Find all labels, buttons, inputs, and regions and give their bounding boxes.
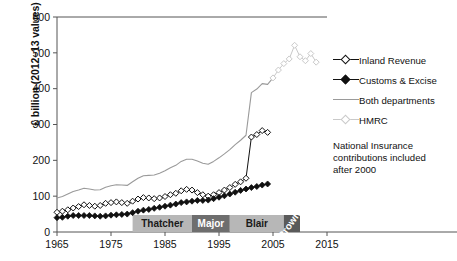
legend-label-both-departments: Both departments <box>359 95 435 106</box>
filled-diamond-icon <box>333 73 359 87</box>
legend-item-inland-revenue[interactable]: Inland Revenue <box>333 50 457 70</box>
legend-item-both-departments[interactable]: Both departments <box>333 90 457 110</box>
y-tick-label: 500 <box>32 47 50 59</box>
pm-band-thatcher: Thatcher <box>133 215 192 232</box>
x-tick-label: 1965 <box>45 238 69 250</box>
legend-label-hmrc: HMRC <box>359 115 388 126</box>
x-tick-label: 1975 <box>99 238 123 250</box>
chart-annotation-note: National Insurance contributions include… <box>333 140 455 177</box>
pm-band-major: Major <box>192 215 230 232</box>
legend-label-inland-revenue: Inland Revenue <box>359 55 426 66</box>
series-customs-excise <box>54 181 271 221</box>
series-hmrc <box>270 42 319 81</box>
y-tick-label: 200 <box>32 154 50 166</box>
svg-text:Major: Major <box>198 218 225 229</box>
note-line-3: after 2000 <box>333 164 455 176</box>
x-tick-label: 1985 <box>153 238 177 250</box>
svg-text:Thatcher: Thatcher <box>141 218 183 229</box>
chart-plot-area: 0100200300400500600196519751985199520052… <box>0 0 457 261</box>
legend-label-customs-excise: Customs & Excise <box>359 75 437 86</box>
chart-figure: £ billion (2012–13 values) 0100200300400… <box>0 0 457 261</box>
open-diamond-light-icon <box>333 113 359 127</box>
pm-band-blair: Blair <box>230 215 284 232</box>
x-tick-label: 2015 <box>315 238 339 250</box>
y-tick-label: 300 <box>32 118 50 130</box>
y-tick-label: 400 <box>32 82 50 94</box>
x-tick-label: 1995 <box>207 238 231 250</box>
y-tick-label: 600 <box>32 11 50 23</box>
note-line-1: National Insurance <box>333 140 455 152</box>
chart-legend: Inland Revenue Customs & Excise Both dep… <box>333 50 457 130</box>
svg-text:Blair: Blair <box>246 218 268 229</box>
note-line-2: contributions included <box>333 152 455 164</box>
open-diamond-icon <box>333 53 359 67</box>
legend-item-hmrc[interactable]: HMRC <box>333 110 457 130</box>
y-tick-label: 0 <box>44 226 50 238</box>
line-swatch-icon <box>333 93 359 107</box>
y-tick-label: 100 <box>32 190 50 202</box>
legend-item-customs-excise[interactable]: Customs & Excise <box>333 70 457 90</box>
